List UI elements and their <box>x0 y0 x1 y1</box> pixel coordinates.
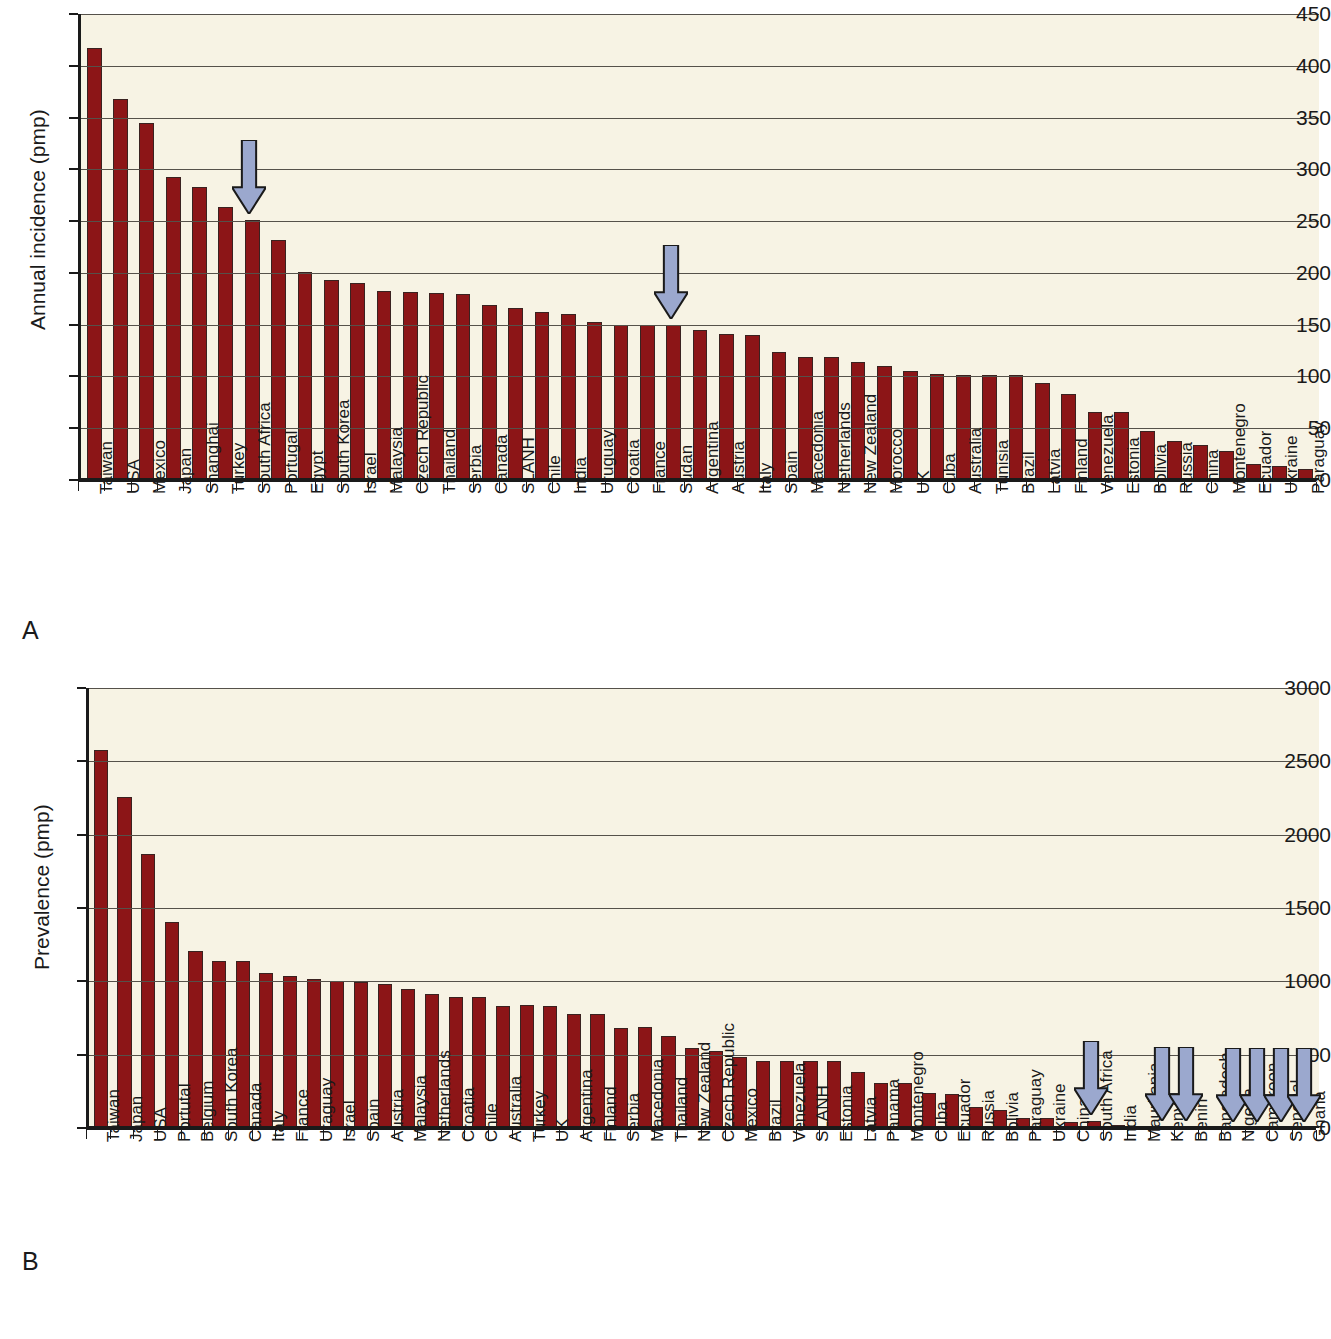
gridline <box>81 169 1319 170</box>
gridline <box>89 688 1319 689</box>
y-tick-mark <box>77 1054 86 1056</box>
x-tick-label: Shanghai <box>203 422 223 494</box>
x-tick-label: Ecuador <box>955 1079 975 1142</box>
gridline <box>89 835 1319 836</box>
bar <box>141 854 155 1128</box>
x-tick-label: Israel <box>361 452 381 494</box>
panel-b-y-axis-title: Prevalence (pmp) <box>30 804 54 970</box>
x-tick-label: Russia <box>1177 442 1197 494</box>
x-tick-label: Austria <box>729 441 749 494</box>
x-tick-label: New Zealand <box>695 1042 715 1142</box>
x-tick-label: South Africa <box>255 402 275 494</box>
gridline <box>81 325 1319 326</box>
x-tick-label: China <box>1203 450 1223 494</box>
x-tick-label: Spain <box>364 1099 384 1142</box>
x-tick-label: Turkey <box>229 443 249 494</box>
x-tick-label: Uruguay <box>598 430 618 494</box>
x-tick-label: Croatia <box>459 1087 479 1142</box>
y-tick-mark <box>69 479 78 481</box>
x-tick-label: Cuba <box>940 453 960 494</box>
y-tick-label: 450 <box>1267 2 1331 26</box>
x-tick-label: Belgium <box>198 1081 218 1142</box>
x-tick-label: Taiwan <box>104 1089 124 1142</box>
x-tick-label: Serbia <box>466 445 486 494</box>
x-tick-label: Latvia <box>861 1097 881 1142</box>
x-tick-label: Argentina <box>577 1069 597 1142</box>
x-tick-label: Montenegro <box>1230 403 1250 494</box>
x-tick-label: Montenegro <box>908 1051 928 1142</box>
gridline <box>89 908 1319 909</box>
panel-b-letter: B <box>22 1247 39 1276</box>
annotation-arrow <box>1074 1041 1108 1115</box>
y-tick-mark <box>69 220 78 222</box>
x-tick-label: USA <box>151 1107 171 1142</box>
y-tick-label: 350 <box>1267 106 1331 130</box>
x-tick-label: Canada <box>246 1082 266 1142</box>
x-tick-label: Finland <box>601 1086 621 1142</box>
x-tick-label: Venezuela <box>1098 415 1118 494</box>
x-tick-label: Thailand <box>440 429 460 494</box>
x-tick-label: South Korea <box>334 399 354 494</box>
x-tick-label: Ukraine <box>1050 1083 1070 1142</box>
y-tick-label: 150 <box>1267 313 1331 337</box>
panel-a: A Annual incidence (pmp) 050100150200250… <box>0 0 1331 670</box>
x-tick-label: Estonia <box>1124 437 1144 494</box>
x-tick-label: Bolivia <box>1003 1092 1023 1142</box>
x-tick-label: India <box>1121 1105 1141 1142</box>
x-tick-label: Australia <box>966 428 986 494</box>
x-tick-label: USA <box>124 459 144 494</box>
y-tick-mark <box>69 65 78 67</box>
x-tick-label: France <box>293 1089 313 1142</box>
y-tick-mark <box>77 907 86 909</box>
x-tick-label: Brazil <box>766 1099 786 1142</box>
y-tick-label: 200 <box>1267 261 1331 285</box>
x-tick-label: Portugal <box>282 431 302 494</box>
x-tick-label: Macedonia <box>648 1059 668 1142</box>
x-tick-label: France <box>650 441 670 494</box>
x-tick-label: Argentina <box>703 421 723 494</box>
x-tick-label: Macedonia <box>808 411 828 494</box>
gridline <box>81 66 1319 67</box>
y-tick-mark <box>69 117 78 119</box>
x-tick-label: UK <box>914 470 934 494</box>
x-tick-label: New Zealand <box>861 394 881 494</box>
x-tick-label: Taiwan <box>97 441 117 494</box>
x-tick-label: Netherlands <box>435 1050 455 1142</box>
x-tick-label: Mexico <box>150 440 170 494</box>
y-tick-label: 3000 <box>1259 676 1331 700</box>
x-tick-label: Mexico <box>742 1088 762 1142</box>
x-tick-label: Paraguay <box>1026 1069 1046 1142</box>
y-tick-label: 1000 <box>1259 969 1331 993</box>
gridline <box>81 273 1319 274</box>
y-tick-label: 2000 <box>1259 823 1331 847</box>
x-tick-label: Czech Republic <box>719 1023 739 1142</box>
x-tick-label: SLANH <box>519 437 539 494</box>
x-tick-label: Brazil <box>1019 451 1039 494</box>
figure-root: A Annual incidence (pmp) 050100150200250… <box>0 0 1331 1339</box>
x-tick-label: Australia <box>506 1076 526 1142</box>
x-tick-label: Israel <box>340 1100 360 1142</box>
panel-b: B Prevalence (pmp) 050010001500200025003… <box>0 670 1331 1339</box>
y-tick-mark <box>77 687 86 689</box>
y-tick-label: 400 <box>1267 54 1331 78</box>
x-tick-label: Cuba <box>932 1101 952 1142</box>
x-tick-label: South Korea <box>222 1047 242 1142</box>
y-tick-mark <box>69 168 78 170</box>
x-tick-label: Italy <box>269 1111 289 1142</box>
x-tick-label: Italy <box>756 463 776 494</box>
x-tick-label: India <box>571 457 591 494</box>
x-tick-label: Malaysia <box>387 427 407 494</box>
panel-a-y-axis-title: Annual incidence (pmp) <box>26 109 50 330</box>
y-tick-label: 1500 <box>1259 896 1331 920</box>
x-tick-label: Spain <box>782 451 802 494</box>
y-tick-mark <box>69 13 78 15</box>
x-tick-label: Morocco <box>887 429 907 494</box>
x-tick-label: Egypt <box>308 451 328 494</box>
x-tick-label: Serbia <box>624 1093 644 1142</box>
y-tick-mark <box>77 980 86 982</box>
bar <box>113 99 128 480</box>
y-tick-label: 2500 <box>1259 749 1331 773</box>
x-tick-label: Latvia <box>1045 449 1065 494</box>
x-tick-mark <box>86 1130 87 1139</box>
x-tick-label: Tunisia <box>993 440 1013 494</box>
